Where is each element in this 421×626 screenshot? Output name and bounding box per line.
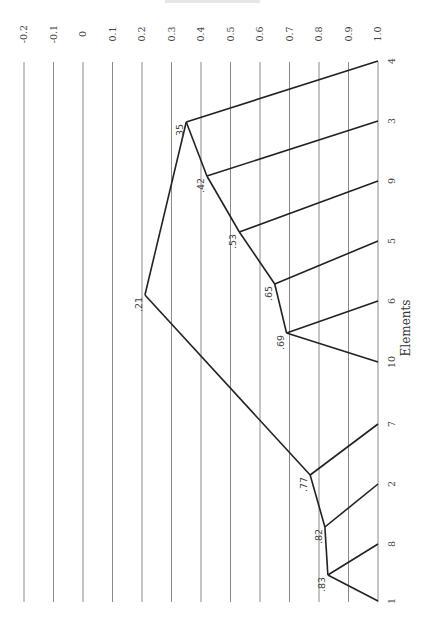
- x-axis-title: Elements: [399, 300, 413, 357]
- branch-line: [325, 527, 328, 575]
- branch-line: [145, 122, 186, 295]
- dendrogram-chart: -0.2-0.100.10.20.30.40.50.60.70.80.91.0 …: [0, 0, 421, 626]
- leaf-label: 6: [386, 298, 397, 304]
- merge-node-label: .83: [316, 577, 327, 592]
- branch-line: [207, 121, 378, 176]
- merge-node-label: .82: [313, 529, 324, 544]
- leaf-label: 2: [386, 481, 397, 487]
- merge-node-labels: .83.82.77.69.65.53.42.35.21: [133, 124, 327, 592]
- dendrogram-branches: [145, 61, 378, 601]
- tick-label: 0.7: [284, 26, 295, 41]
- branch-line: [287, 301, 378, 333]
- tick-label: 0.5: [225, 26, 236, 41]
- branch-line: [239, 232, 274, 284]
- branch-line: [287, 333, 378, 362]
- tick-label: 0.3: [166, 26, 177, 41]
- tick-label: -0.2: [18, 25, 29, 43]
- branch-line: [328, 575, 378, 601]
- merge-node-label: .69: [275, 335, 286, 350]
- merge-node-label: .53: [227, 234, 238, 249]
- tick-label: 0: [77, 31, 88, 37]
- leaf-labels: 43956107281: [386, 58, 397, 604]
- leaf-label: 9: [386, 178, 397, 184]
- branch-line: [328, 544, 378, 575]
- branch-line: [207, 176, 239, 232]
- branch-line: [310, 424, 378, 475]
- merge-node-label: .77: [298, 477, 309, 492]
- branch-line: [186, 122, 207, 176]
- tick-label: 0.8: [313, 26, 324, 41]
- branch-line: [275, 284, 287, 333]
- branch-line: [275, 241, 378, 284]
- leaf-label: 7: [386, 421, 397, 427]
- tick-label: 0.4: [195, 26, 206, 41]
- merge-node-label: .42: [195, 178, 206, 193]
- gridlines: [24, 62, 378, 602]
- merge-node-label: .65: [263, 286, 274, 301]
- tick-label: 0.9: [343, 26, 354, 41]
- leaf-label: 4: [386, 58, 397, 64]
- leaf-label: 10: [386, 356, 397, 368]
- merge-node-label: .21: [133, 297, 144, 312]
- leaf-label: 3: [386, 118, 397, 124]
- tick-label: -0.1: [48, 25, 59, 43]
- leaf-label: 8: [386, 541, 397, 547]
- clipped-title: [165, 0, 260, 3]
- branch-line: [310, 475, 325, 527]
- leaf-label: 1: [386, 598, 397, 604]
- branch-line: [325, 484, 378, 527]
- leaf-label: 5: [386, 238, 397, 244]
- tick-label: 0.2: [136, 26, 147, 41]
- tick-label: 0.1: [107, 26, 118, 41]
- branch-line: [186, 61, 378, 122]
- similarity-axis-ticks: -0.2-0.100.10.20.30.40.50.60.70.80.91.0: [18, 25, 383, 43]
- branch-line: [145, 295, 310, 475]
- tick-label: 0.6: [254, 26, 265, 41]
- merge-node-label: .35: [174, 124, 185, 139]
- tick-label: 1.0: [372, 26, 383, 41]
